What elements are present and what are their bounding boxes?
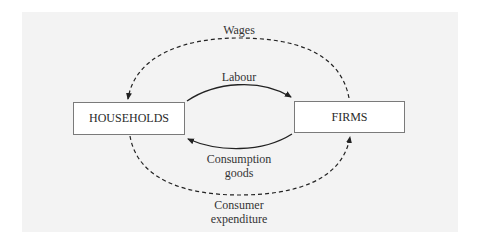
consumer-expenditure-label-line2: expenditure xyxy=(169,212,309,226)
consumption-goods-label-line2: goods xyxy=(169,166,309,180)
households-label: HOUSEHOLDS xyxy=(89,111,169,126)
consumption-goods-label-line1: Consumption xyxy=(169,152,309,166)
consumption-goods-arrow xyxy=(188,134,292,149)
labour-label: Labour xyxy=(169,70,309,84)
wages-arrow xyxy=(128,38,349,99)
consumer-expenditure-label-line1: Consumer xyxy=(169,198,309,212)
wages-label: Wages xyxy=(169,23,309,37)
firms-label: FIRMS xyxy=(331,110,367,125)
labour-arrow xyxy=(187,85,291,101)
firms-node: FIRMS xyxy=(294,101,405,133)
households-node: HOUSEHOLDS xyxy=(73,102,185,135)
